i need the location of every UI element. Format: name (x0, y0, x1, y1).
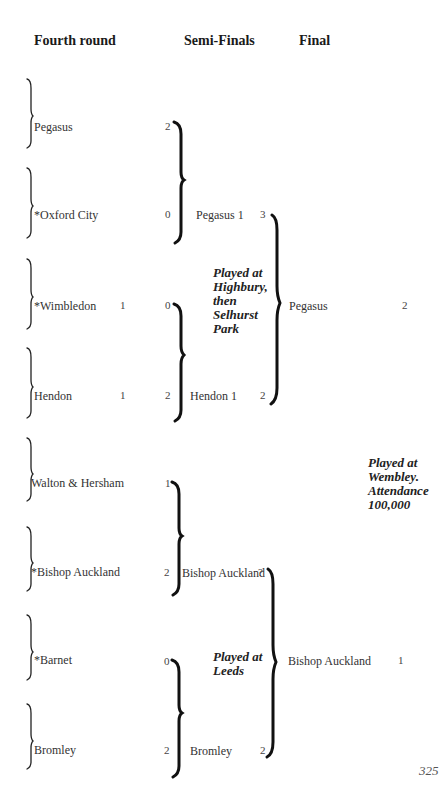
fourth-round-team: *Oxford City (34, 208, 98, 223)
final-venue-note: Played at Wembley. Attendance 100,000 (368, 456, 438, 512)
page-number: 325 (419, 763, 439, 779)
fourth-round-team: *Wimbledon (34, 299, 96, 314)
fourth-round-score: 1 (120, 299, 126, 311)
fourth-round-team: Pegasus (34, 120, 73, 135)
fourth-round-team: *Bishop Auckland (31, 565, 120, 580)
semi-final-score: 2 (260, 389, 266, 401)
fourth-round-result: 2 (165, 389, 171, 401)
fourth-round-result: 0 (164, 655, 170, 667)
fourth-round-team: Bromley (34, 743, 76, 758)
fourth-round-result: 2 (164, 566, 170, 578)
semi-final-score: 3 (260, 208, 266, 220)
final-score: 1 (398, 654, 404, 666)
final-team: Pegasus (289, 299, 328, 314)
semi-final-score: 2 (260, 744, 266, 756)
semi-final-venue-note: Played at Leeds (213, 650, 273, 678)
semi-final-venue-note: Played at Highbury, then Selhurst Park (213, 266, 273, 336)
semi-final-team: Hendon 1 (190, 389, 237, 404)
fourth-round-result: 0 (165, 208, 171, 220)
fourth-round-result: 0 (165, 299, 171, 311)
semi-final-team: Pegasus 1 (196, 208, 244, 223)
fourth-round-result: 2 (165, 120, 171, 132)
final-score: 2 (402, 299, 408, 311)
fourth-round-score: 1 (120, 389, 126, 401)
final-team: Bishop Auckland (288, 654, 371, 669)
fourth-round-result: 2 (164, 744, 170, 756)
semi-final-team: Bishop Auckland (182, 566, 265, 581)
fourth-round-team: *Barnet (34, 653, 72, 668)
semi-final-team: Bromley (190, 744, 232, 759)
semi-final-score: ? (258, 566, 263, 578)
fourth-round-team: Walton & Hersham (31, 476, 124, 491)
fourth-round-team: Hendon (34, 389, 72, 404)
fourth-round-result: 1 (165, 477, 171, 489)
